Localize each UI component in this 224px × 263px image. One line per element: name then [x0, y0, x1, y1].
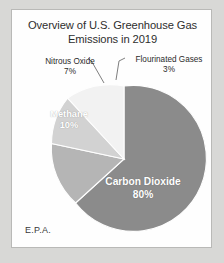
pie-label-flourinated-gases-name: Flourinated Gases — [136, 55, 203, 64]
pie-label-methane-name: Methane — [50, 109, 88, 119]
pie-label-carbon-dioxide: Carbon Dioxide 80% — [84, 176, 202, 201]
pie-label-methane: Methane 10% — [32, 109, 106, 131]
pie-label-methane-value: 10% — [60, 120, 79, 130]
pie-label-carbon-dioxide-name: Carbon Dioxide — [105, 176, 180, 187]
chart-card: Overview of U.S. Greenhouse Gas Emission… — [11, 9, 212, 248]
source-credit: E.P.A. — [25, 225, 51, 235]
chart-figure: Overview of U.S. Greenhouse Gas Emission… — [0, 0, 224, 263]
pie-label-nitrous-oxide-name: Nitrous Oxide — [45, 57, 95, 66]
pie-label-carbon-dioxide-value: 80% — [133, 189, 153, 200]
pie-label-nitrous-oxide: Nitrous Oxide 7% — [31, 57, 109, 77]
pie-label-nitrous-oxide-value: 7% — [31, 67, 109, 77]
leader-line-flourinated-gases — [116, 58, 125, 80]
pie-label-flourinated-gases-value: 3% — [126, 65, 212, 75]
pie-label-flourinated-gases: Flourinated Gases 3% — [126, 55, 212, 75]
